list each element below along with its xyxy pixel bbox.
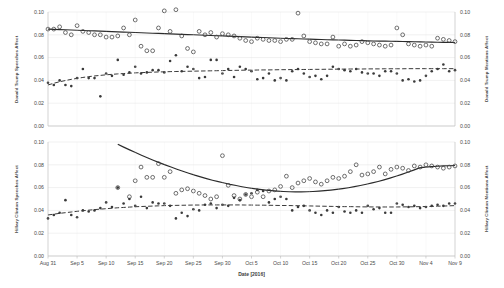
data-point-mentions — [140, 72, 143, 75]
top-y-tick-label-left: 0.04 — [22, 77, 44, 83]
data-point-speeches — [418, 44, 422, 48]
data-point-speeches — [209, 31, 213, 35]
data-point-speeches — [325, 179, 329, 183]
top-y-tick-label-right: 0.04 — [460, 77, 470, 83]
data-point-speeches — [407, 42, 411, 46]
top-y-tick-label-right: 0.10 — [460, 9, 470, 15]
data-point-speeches — [139, 44, 143, 48]
data-point-mentions — [169, 205, 172, 208]
data-point-mentions — [430, 70, 433, 73]
top-right-axis-title: Donald Trump Mentions Affect — [484, 36, 489, 102]
data-point-mentions — [273, 198, 276, 201]
data-point-mentions — [256, 189, 259, 192]
data-point-mentions — [390, 70, 393, 73]
data-point-mentions — [128, 198, 131, 201]
data-point-mentions — [413, 80, 416, 83]
data-point-mentions — [343, 69, 346, 72]
data-point-speeches — [378, 165, 382, 169]
bottom-y-tick-label-left: 0.00 — [22, 253, 44, 259]
data-point-speeches — [372, 170, 376, 174]
data-point-speeches — [412, 43, 416, 47]
data-point-mentions — [303, 72, 306, 75]
data-point-mentions — [378, 75, 381, 78]
data-point-mentions — [157, 69, 160, 72]
data-point-speeches — [145, 49, 149, 53]
bottom-y-tick-label-right: 0.08 — [460, 162, 470, 168]
data-point-mentions — [285, 79, 288, 82]
data-point-mentions — [186, 65, 189, 68]
top-left-axis-title: Donald Trump Speeches Affect — [14, 35, 19, 102]
data-point-speeches — [168, 29, 172, 33]
data-point-mentions — [268, 72, 271, 75]
data-point-speeches — [197, 191, 201, 195]
data-point-speeches — [383, 44, 387, 48]
bottom-y-tick-label-right: 0.02 — [460, 230, 470, 236]
data-point-mentions — [70, 85, 73, 88]
data-point-mentions — [186, 215, 189, 218]
data-point-speeches — [122, 26, 126, 30]
data-point-speeches — [331, 35, 335, 39]
data-point-mentions — [372, 208, 375, 211]
top-y-tick-label-left: 0.00 — [22, 123, 44, 129]
data-point-mentions — [239, 65, 242, 68]
data-point-mentions — [349, 211, 352, 214]
data-point-speeches — [360, 173, 364, 177]
data-point-mentions — [384, 70, 387, 73]
bottom-y-tick-label-right: 0.06 — [460, 184, 470, 190]
data-point-mentions — [343, 210, 346, 213]
data-point-mentions — [361, 71, 364, 74]
data-point-speeches — [267, 39, 271, 43]
data-point-mentions — [122, 73, 125, 76]
data-point-mentions — [175, 217, 178, 220]
data-point-mentions — [151, 201, 154, 204]
data-point-speeches — [296, 181, 300, 185]
bottom-right-axis-title: Hillary Clinton Mentions Affect — [484, 166, 489, 232]
data-point-mentions — [227, 205, 230, 208]
data-point-speeches — [186, 47, 190, 51]
data-point-speeches — [430, 44, 434, 48]
data-point-mentions — [198, 77, 201, 80]
data-point-mentions — [111, 75, 114, 78]
data-point-speeches — [441, 166, 445, 170]
data-point-mentions — [210, 59, 213, 62]
data-point-speeches — [372, 42, 376, 46]
data-point-speeches — [273, 39, 277, 43]
data-point-mentions — [175, 54, 178, 57]
data-point-mentions — [297, 68, 300, 71]
bottom-y-tick-label-right: 0.10 — [460, 139, 470, 145]
data-point-mentions — [146, 71, 149, 74]
data-point-mentions — [87, 210, 90, 213]
data-point-mentions — [332, 65, 335, 68]
data-point-mentions — [157, 202, 160, 205]
data-point-speeches — [139, 165, 143, 169]
bottom-y-tick-label-right: 0.00 — [460, 253, 470, 259]
data-point-mentions — [233, 76, 236, 79]
data-point-mentions — [122, 202, 125, 205]
data-point-mentions — [372, 72, 375, 75]
data-point-speeches — [383, 172, 387, 176]
data-point-mentions — [262, 190, 265, 193]
data-point-mentions — [87, 77, 90, 80]
data-point-mentions — [303, 205, 306, 208]
data-point-mentions — [53, 214, 56, 217]
data-point-mentions — [93, 77, 96, 80]
data-point-mentions — [210, 202, 213, 205]
data-point-mentions — [320, 78, 323, 81]
data-point-mentions — [93, 209, 96, 212]
data-point-mentions — [349, 70, 352, 73]
data-point-mentions — [227, 68, 230, 71]
top-y-tick-label-right: 0.08 — [460, 32, 470, 38]
data-point-mentions — [442, 205, 445, 208]
top-y-tick-label-right: 0.06 — [460, 54, 470, 60]
data-point-mentions — [116, 186, 119, 189]
data-point-speeches — [389, 167, 393, 171]
top-y-tick-label-right: 0.02 — [460, 100, 470, 106]
data-point-speeches — [319, 42, 323, 46]
data-point-mentions — [419, 79, 422, 82]
data-point-speeches — [389, 43, 393, 47]
x-axis-title: Date [2016] — [192, 271, 312, 277]
data-point-mentions — [430, 205, 433, 208]
data-point-mentions — [314, 211, 317, 214]
data-point-mentions — [204, 76, 207, 79]
data-point-mentions — [140, 195, 143, 198]
